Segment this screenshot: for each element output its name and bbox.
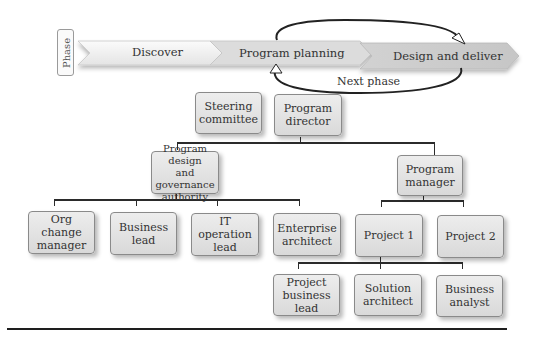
box-org-change-manager: Org changemanager [28,211,95,254]
box-program-design-governance-authority: Program designand governanceauthority [151,151,219,194]
cycle-arrow-top-icon [276,20,460,40]
connector [381,200,464,202]
connector [434,142,435,156]
phase-discover: Discover [132,45,183,59]
connector [217,199,218,206]
connector [299,199,300,206]
box-project-1: Project 1 [355,214,423,257]
box-program-director: Programdirector [274,94,342,136]
connector [298,262,299,269]
box-it-operation-lead: IT operationlead [191,213,259,256]
next-phase-label: Next phase [337,75,400,88]
connector [462,262,463,269]
box-program-manager: Programmanager [397,155,463,196]
box-steering-committee: Steeringcommittee [195,92,262,134]
phase-design-and-deliver: Design and deliver [393,49,503,63]
box-enterprise-architect: Enterprisearchitect [273,213,341,256]
connector [380,262,381,269]
connector [136,199,137,206]
box-project-2: Project 2 [437,215,504,258]
box-project-business-lead: Projectbusiness lead [273,274,340,316]
box-business-analyst: Businessanalyst [436,275,503,317]
connector [54,199,55,206]
phase-program-planning: Program planning [239,46,345,60]
box-solution-architect: Solutionarchitect [354,274,422,316]
connector [463,200,464,207]
connector [381,200,382,207]
box-business-lead: Businesslead [110,212,177,255]
divider-rule [7,328,507,330]
